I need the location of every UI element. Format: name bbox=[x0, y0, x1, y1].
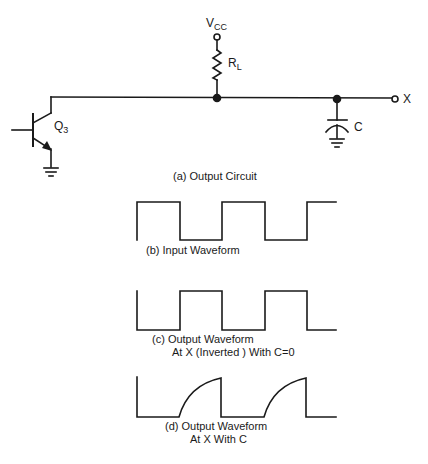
circuit-caption: (a) Output Circuit bbox=[173, 171, 257, 182]
resistor-rl-icon bbox=[213, 50, 221, 80]
resistor-label: RL bbox=[228, 57, 242, 72]
output-waveform-with-c bbox=[137, 377, 336, 417]
transistor-label: Q3 bbox=[54, 120, 68, 135]
transistor-q3-icon bbox=[12, 97, 52, 167]
waveform-c-caption-line2: At X (Inverted ) With C=0 bbox=[172, 347, 295, 358]
capacitor-label: C bbox=[354, 121, 363, 133]
waveform-d-caption-line2: At X With C bbox=[190, 434, 247, 445]
vcc-label: VCC bbox=[206, 17, 227, 32]
vcc-terminal-icon bbox=[214, 34, 220, 40]
ground-icon bbox=[44, 168, 58, 176]
input-waveform bbox=[137, 202, 336, 240]
capacitor-c-icon bbox=[326, 99, 348, 138]
output-node-label: X bbox=[403, 93, 411, 105]
output-terminal-icon bbox=[392, 96, 398, 102]
output-waveform-inverted bbox=[137, 291, 336, 330]
diagram-canvas bbox=[0, 0, 428, 464]
waveform-d-caption: (d) Output Waveform bbox=[165, 421, 267, 432]
ground-icon bbox=[330, 139, 344, 147]
junction-dot-icon bbox=[214, 95, 221, 102]
waveform-c-caption: (c) Output Waveform bbox=[152, 334, 254, 345]
waveform-b-caption: (b) Input Waveform bbox=[146, 245, 240, 256]
